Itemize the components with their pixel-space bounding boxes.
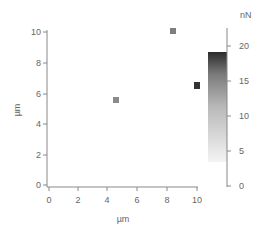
data-point: [113, 97, 119, 103]
y-tick-label: 10: [31, 27, 41, 37]
colorbar-unit-label: nN: [240, 10, 252, 20]
plot-background: [48, 30, 198, 186]
data-point: [194, 82, 200, 89]
colorbar-tick-label: 10: [239, 111, 249, 121]
x-axis: 0 2 4 6 8 10 µm: [46, 187, 202, 224]
x-tick-label: 6: [134, 195, 139, 205]
colorbar-tick-label: 20: [239, 41, 249, 51]
y-axis-label: µm: [12, 104, 22, 117]
colorbar-tick-label: 0: [239, 181, 244, 191]
x-tick-label: 10: [192, 195, 202, 205]
y-tick-label: 6: [36, 89, 41, 99]
y-ticks: [43, 32, 47, 185]
x-tick-label: 8: [164, 195, 169, 205]
y-tick-label: 4: [36, 119, 41, 129]
x-tick-label: 2: [75, 195, 80, 205]
x-tick-label: 4: [104, 195, 109, 205]
afm-force-map-chart: 0 2 4 6 8 10 µm 0 2 4 6 8 10 µm: [0, 0, 262, 231]
x-tick-label: 0: [46, 195, 51, 205]
y-tick-label: 2: [36, 150, 41, 160]
x-ticks: [49, 187, 197, 191]
colorbar-tick-label: 15: [239, 76, 249, 86]
y-tick-label: 8: [36, 58, 41, 68]
colorbar-gradient: [208, 52, 227, 162]
y-tick-label: 0: [36, 180, 41, 190]
colorbar: 0 5 10 15 20 nN: [208, 10, 252, 191]
data-point: [170, 28, 176, 34]
y-axis: 0 2 4 6 8 10 µm: [12, 27, 47, 190]
colorbar-ticks: [227, 46, 231, 186]
plot-area: [48, 28, 200, 186]
x-axis-label: µm: [117, 214, 130, 224]
colorbar-tick-label: 5: [239, 146, 244, 156]
